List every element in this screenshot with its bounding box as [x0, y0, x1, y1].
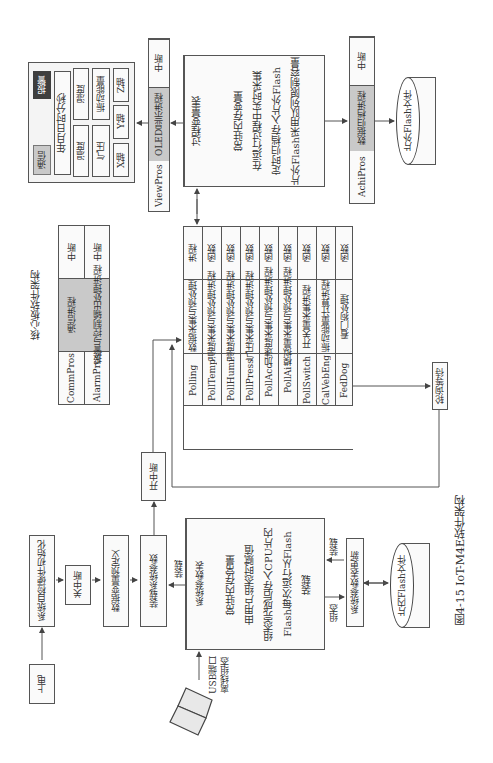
int-flash-label: 片内Flash文件	[390, 543, 414, 628]
alarm-name: AlarmPros	[85, 352, 110, 404]
process-var-line: 片外Flash采用队列限制容量	[286, 57, 305, 185]
load-label-2: 装载	[327, 534, 341, 560]
comm-name: CommPros	[59, 352, 84, 404]
sys-param-table: 系统参数表 常驻内存常量 由用户组态时赋值 组态完成后存入CPU片内 Flash…	[185, 518, 325, 650]
polling-row-name: PollAcc	[260, 354, 278, 406]
polling-row-type: 函数	[298, 227, 316, 279]
polling-row-name: FedDog	[336, 354, 353, 406]
polling-row-name: PollPress	[241, 354, 259, 406]
comm-alarm-table: 中断 中断 通信进程 报警与控制输出处理进程 CommPros AlarmPro…	[58, 225, 110, 405]
figure-caption: 图4-15 IoT-M4E软件架构	[452, 420, 470, 700]
archive-process-box: 中断 数据归档进程 AchiPros	[349, 36, 375, 204]
polling-table: 进程 数据采集与预处理 Polling 函数 温度采集与预处理进程 PollTe…	[183, 226, 353, 406]
sys-param-header: 系统参数表	[186, 519, 212, 649]
self-check-box: 系统自检硬件初始化	[29, 535, 55, 627]
config-label: 组态	[327, 600, 341, 626]
polling-row-name: PollSwitch	[298, 354, 316, 406]
sys-param-line: 常驻内存常量	[221, 528, 240, 641]
polling-row-name: PollHumi	[222, 354, 240, 406]
alarm-desc: 报警与控制输出处理进程	[85, 279, 110, 351]
load-params-box: 装载系统参数	[140, 535, 167, 627]
polling-row-type: 函数	[336, 227, 353, 279]
archive-process-type: 中断	[350, 37, 374, 85]
archive-process-name: AchiPros	[350, 151, 374, 203]
ext-flash-label: 片外Flash文件	[396, 77, 420, 165]
pressure-field: 气压	[92, 125, 110, 177]
polling-row-type: 进程	[184, 227, 202, 279]
view-process-desc: OLED显示进程	[149, 87, 169, 161]
polling-row-name: Polling	[184, 354, 202, 406]
process-var-line: 定时归档存入片外Flash	[267, 57, 286, 185]
core-board-title: 核心板软件架构	[28, 270, 44, 340]
laptop-icon	[170, 688, 212, 735]
sys-param-line: Flash每次运行从Flash	[278, 528, 297, 641]
polling-row-desc: 振动能量计算进程	[317, 280, 335, 353]
comm-indicator: 通信	[33, 145, 51, 175]
vib-energy-field: 振动能量	[92, 68, 110, 120]
view-process-box: 中断 OLED显示进程 ViewPros	[148, 38, 170, 212]
ext-flash-file: 片外Flash文件	[396, 77, 436, 165]
int-flash-file: 片内Flash文件	[390, 543, 430, 628]
oled-display-panel: 报警 通信 年月日时分秒 湿度 温度 振动能量 气压 Z轴 Y轴 X轴	[28, 62, 135, 183]
comm-type: 中断	[59, 226, 84, 278]
polling-row-name: CalVebEng	[317, 354, 335, 406]
process-var-header: 过程变量表	[184, 56, 210, 186]
sys-param-update-box: 系统参数表更新	[346, 538, 364, 627]
z-axis-field: Z轴	[113, 68, 129, 102]
process-var-table: 过程变量表 常驻内存变量 在运行过程中实时采集 定时归档存入片外Flash 片外…	[183, 55, 325, 187]
polling-row-desc: 模拟量采集与预处理进程	[279, 280, 297, 353]
power-on-box: 上电	[29, 664, 55, 704]
archive-process-desc: 数据归档进程	[350, 85, 374, 151]
sys-param-line: 装载	[297, 528, 316, 641]
datetime-field: 年月日时分秒	[54, 71, 71, 175]
var-predef-box: 数据变量预定义	[103, 535, 129, 627]
polling-row-name: PollAi	[279, 354, 297, 406]
enable-interrupt-box: 开中断	[141, 452, 166, 501]
process-var-line: 常驻内存变量	[229, 57, 248, 185]
polling-row-desc: 数据采集与预处理	[184, 280, 202, 353]
alarm-indicator: 报警	[33, 71, 51, 99]
process-var-line: 在运行过程中实时采集	[248, 57, 267, 185]
view-process-name: ViewPros	[149, 161, 169, 211]
polling-row-desc: 开关量采集进程	[298, 280, 316, 353]
comm-desc: 通信进程	[59, 279, 84, 351]
temp-field: 温度	[73, 125, 89, 177]
sys-param-body: 常驻内存常量 由用户组态时赋值 组态完成后存入CPU片内 Flash每次运行从F…	[212, 519, 324, 649]
polling-row-desc: 温度采集与预处理进程	[203, 280, 221, 353]
sys-param-line: 组态完成后存入CPU片内	[259, 528, 278, 641]
usb-port-label: USB端口	[207, 655, 219, 695]
polling-row-type: 函数	[317, 227, 335, 279]
load-label: 装载	[172, 555, 186, 583]
y-axis-field: Y轴	[113, 105, 129, 139]
polling-row-name: PollTemp	[203, 354, 221, 406]
x-axis-field: X轴	[113, 143, 129, 177]
polling-row-desc: 气压采集与预处理进程	[241, 280, 259, 353]
disable-interrupt-box: 关中断	[65, 565, 91, 605]
humi-field: 湿度	[73, 68, 89, 120]
poll-wait-box: 轮询等待	[432, 362, 448, 410]
polling-row-desc: 湿度采集与预处理进程	[222, 280, 240, 353]
sys-param-line: 由用户组态时赋值	[240, 528, 259, 641]
view-process-type: 中断	[149, 39, 169, 87]
polling-row-desc: 看门狗处理	[336, 280, 353, 353]
polling-row-desc: 加速度采集与预处理进程	[260, 280, 278, 353]
offline-config-label: 离线组态	[219, 655, 231, 695]
process-var-body: 常驻内存变量 在运行过程中实时采集 定时归档存入片外Flash 片外Flash采…	[210, 56, 324, 186]
